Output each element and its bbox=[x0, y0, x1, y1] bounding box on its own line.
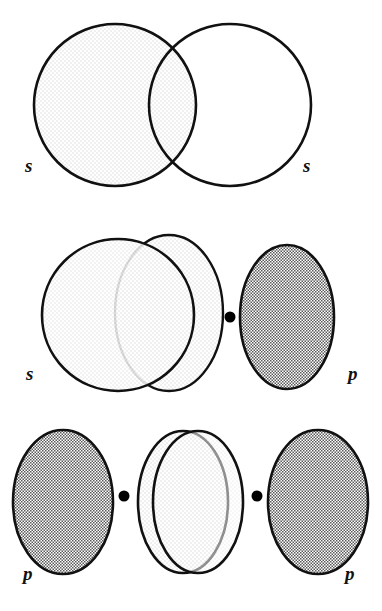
s-orbital-left bbox=[42, 239, 194, 391]
p-lobe-empty-inner-right bbox=[153, 431, 243, 573]
orbital-overlap-figure: s s s p bbox=[0, 0, 382, 611]
panel-p-p-overlap: p p bbox=[0, 410, 382, 611]
panel-s-s-canvas: s s bbox=[0, 0, 382, 210]
p-lobe-filled-right bbox=[268, 430, 368, 574]
orbital-label-s-right: s bbox=[302, 155, 310, 176]
s-orbital-right bbox=[149, 24, 311, 186]
panel-p-p-canvas: p p bbox=[0, 410, 382, 611]
orbital-label-s-left: s bbox=[25, 363, 33, 384]
orbital-label-p-right: p bbox=[343, 563, 355, 584]
nucleus-dot-center bbox=[225, 312, 236, 323]
orbital-label-p-right: p bbox=[346, 363, 358, 384]
panel-s-p-overlap: s p bbox=[0, 210, 382, 410]
nucleus-dot-right bbox=[252, 491, 263, 502]
orbital-label-p-left: p bbox=[21, 563, 33, 584]
panel-s-s-overlap: s s bbox=[0, 0, 382, 210]
nucleus-dot-left bbox=[119, 491, 130, 502]
orbital-label-s-left: s bbox=[24, 155, 32, 176]
panel-s-p-canvas: s p bbox=[0, 210, 382, 410]
p-lobe-filled-right bbox=[240, 245, 334, 389]
p-lobe-filled-left bbox=[13, 430, 113, 574]
